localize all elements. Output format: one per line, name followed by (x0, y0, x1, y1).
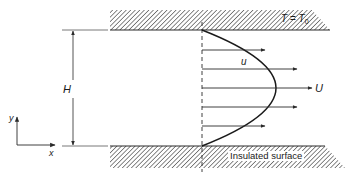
y-axis-label: y (9, 114, 14, 123)
local-velocity-label: u (241, 57, 247, 67)
max-velocity-label: U (315, 83, 323, 94)
diagram: T = T0 H u U Insulated surface y x (0, 0, 355, 179)
coordinate-axes (17, 117, 55, 145)
height-label: H (63, 84, 71, 95)
insulated-surface-label: Insulated surface (228, 151, 304, 161)
x-axis-label: x (49, 149, 54, 158)
temperature-label: T = T0 (281, 14, 309, 25)
velocity-arrows (202, 50, 312, 126)
